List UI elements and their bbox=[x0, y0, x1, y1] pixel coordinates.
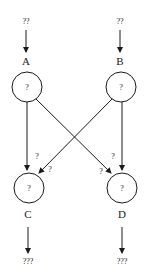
input-b-label: ?? bbox=[116, 17, 124, 26]
weight-a-d: ? bbox=[99, 167, 103, 176]
edge-a-d bbox=[36, 99, 111, 173]
weight-b-c: ? bbox=[48, 165, 52, 174]
weight-b-d: ? bbox=[111, 152, 115, 161]
node-b-name: B bbox=[116, 55, 123, 67]
weight-a-c: ? bbox=[35, 152, 39, 161]
node-d-name: D bbox=[118, 208, 126, 220]
node-c-name: C bbox=[24, 208, 31, 220]
input-a-label: ?? bbox=[22, 17, 30, 26]
node-a-value: ? bbox=[25, 83, 29, 92]
node-b-value: ? bbox=[119, 83, 123, 92]
output-c-label: ??? bbox=[23, 257, 34, 266]
output-d-label: ??? bbox=[117, 257, 128, 266]
network-diagram: ?? ?? A B ? ? ? ? ? ? ? ? C D ??? ??? bbox=[0, 0, 153, 277]
edge-b-c bbox=[39, 99, 112, 173]
node-d-value: ? bbox=[120, 184, 124, 193]
node-a-name: A bbox=[22, 55, 30, 67]
node-c-value: ? bbox=[27, 184, 31, 193]
